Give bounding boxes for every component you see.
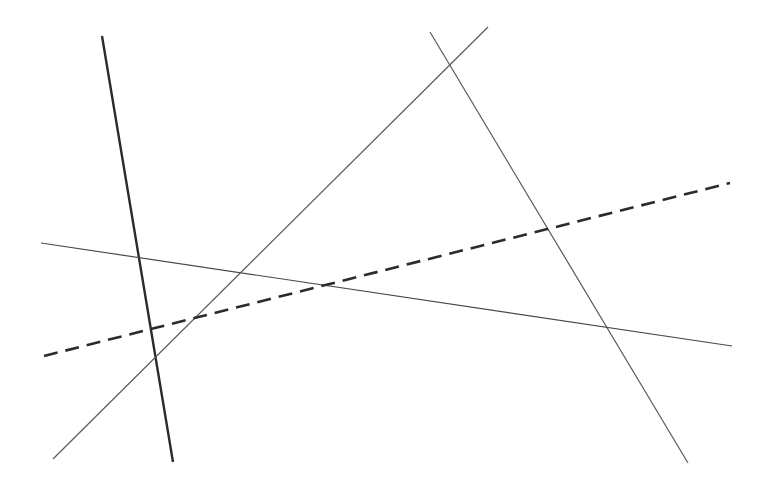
- line-diagram-canvas: [0, 0, 768, 487]
- background: [0, 0, 768, 487]
